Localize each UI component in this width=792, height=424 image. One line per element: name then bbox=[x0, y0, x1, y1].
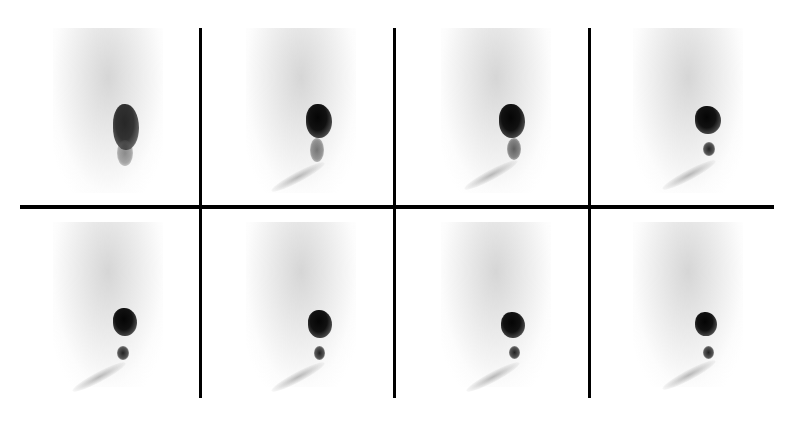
scintigraphy-grid bbox=[0, 0, 792, 424]
frame-7 bbox=[423, 222, 563, 387]
background-activity bbox=[53, 222, 163, 387]
hot-spot bbox=[501, 312, 525, 338]
frame-3 bbox=[423, 28, 563, 193]
distal-focus bbox=[507, 138, 521, 160]
distal-focus bbox=[117, 140, 133, 166]
frame-8 bbox=[615, 222, 755, 387]
distal-focus bbox=[703, 142, 715, 156]
frame-2 bbox=[228, 28, 368, 193]
background-activity bbox=[53, 28, 163, 193]
frame-5 bbox=[35, 222, 175, 387]
frame-4 bbox=[615, 28, 755, 193]
background-activity bbox=[246, 222, 356, 387]
distal-focus bbox=[117, 346, 129, 360]
frame-1 bbox=[35, 28, 175, 193]
hot-spot bbox=[113, 308, 137, 336]
divider-horizontal bbox=[20, 205, 774, 209]
divider-vertical-3 bbox=[588, 28, 591, 398]
background-activity bbox=[633, 28, 743, 193]
divider-vertical-1 bbox=[199, 28, 202, 398]
background-activity bbox=[633, 222, 743, 387]
hot-spot bbox=[308, 310, 332, 338]
hot-spot bbox=[306, 104, 332, 138]
hot-spot bbox=[695, 106, 721, 134]
distal-focus bbox=[703, 346, 714, 359]
hot-spot bbox=[499, 104, 525, 138]
background-activity bbox=[441, 222, 551, 387]
distal-focus bbox=[314, 346, 325, 360]
distal-focus bbox=[310, 138, 324, 162]
distal-focus bbox=[509, 346, 520, 359]
divider-vertical-2 bbox=[393, 28, 396, 398]
frame-6 bbox=[228, 222, 368, 387]
background-activity bbox=[246, 28, 356, 193]
hot-spot bbox=[695, 312, 717, 336]
